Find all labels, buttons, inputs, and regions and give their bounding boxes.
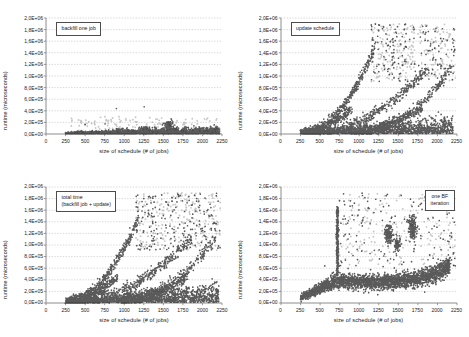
y-axis-title: runtime (microseconds): [237, 71, 243, 130]
y-tick-label: 6,0E+05: [2, 265, 43, 271]
panel-legend-top-left: backfill one job: [56, 22, 101, 36]
y-tick-label: 6,0E+05: [2, 96, 43, 102]
y-tick-label: 1,2E+06: [2, 230, 43, 236]
y-tick-label: 1,4E+06: [2, 50, 43, 56]
y-tick-label: 0,0E+00: [2, 299, 43, 305]
y-tick-label: 1,6E+06: [237, 38, 278, 44]
panel-legend-bottom-left: total time (backfill job + update): [56, 191, 116, 212]
y-tick-label: 8,0E+05: [2, 85, 43, 91]
x-axis-title: size of schedule (# of jobs): [46, 317, 222, 323]
y-tick-label: 8,0E+05: [2, 253, 43, 259]
x-axis-title: size of schedule (# of jobs): [281, 148, 457, 154]
y-tick-label: 1,8E+06: [2, 195, 43, 201]
panel-legend-bottom-right: one BF iteration: [425, 190, 454, 211]
x-tick-label: 2250: [446, 307, 468, 313]
y-tick-label: 0,0E+00: [237, 131, 278, 137]
y-tick-label: 2,0E+06: [237, 15, 278, 21]
y-tick-label: 1,4E+06: [237, 50, 278, 56]
x-tick-label: 2250: [211, 307, 233, 313]
y-axis-title: runtime (microseconds): [2, 71, 8, 130]
y-tick-label: 2,0E+06: [2, 183, 43, 189]
y-tick-label: 4,0E+05: [2, 108, 43, 114]
x-axis-title: size of schedule (# of jobs): [46, 148, 222, 154]
y-tick-label: 1,2E+06: [2, 61, 43, 67]
y-tick-label: 1,4E+06: [2, 218, 43, 224]
y-tick-label: 2,0E+05: [2, 119, 43, 125]
x-tick-label: 2250: [211, 138, 233, 144]
y-tick-label: 1,8E+06: [237, 27, 278, 33]
panel-bottom-right: 0,0E+002,0E+054,0E+056,0E+058,0E+051,0E+…: [235, 169, 469, 337]
panel-top-right: 0,0E+002,0E+054,0E+056,0E+058,0E+051,0E+…: [235, 0, 469, 168]
y-axis-title: runtime (microseconds): [2, 240, 8, 299]
y-tick-label: 2,0E+06: [237, 183, 278, 189]
y-tick-label: 1,2E+06: [237, 61, 278, 67]
x-tick-label: 2250: [446, 138, 468, 144]
y-tick-label: 1,0E+06: [2, 241, 43, 247]
panel-legend-top-right: update schedule: [291, 22, 340, 36]
y-tick-label: 1,8E+06: [237, 195, 278, 201]
x-axis-title: size of schedule (# of jobs): [281, 317, 457, 323]
y-tick-label: 1,6E+06: [2, 38, 43, 44]
y-tick-label: 1,6E+06: [237, 207, 278, 213]
y-tick-label: 0,0E+00: [2, 131, 43, 137]
y-tick-label: 1,2E+06: [237, 230, 278, 236]
y-tick-label: 4,0E+05: [2, 276, 43, 282]
y-axis-title: runtime (microseconds): [237, 240, 243, 299]
figure-four-panel-scatter-grid: 0,0E+002,0E+054,0E+056,0E+058,0E+051,0E+…: [0, 0, 469, 337]
y-tick-label: 2,0E+05: [2, 288, 43, 294]
y-tick-label: 1,4E+06: [237, 218, 278, 224]
y-tick-label: 1,0E+06: [2, 73, 43, 79]
panel-bottom-left: 0,0E+002,0E+054,0E+056,0E+058,0E+051,0E+…: [0, 169, 234, 337]
y-tick-label: 1,6E+06: [2, 207, 43, 213]
y-tick-label: 1,8E+06: [2, 27, 43, 33]
y-tick-label: 0,0E+00: [237, 299, 278, 305]
y-tick-label: 2,0E+06: [2, 15, 43, 21]
panel-top-left: 0,0E+002,0E+054,0E+056,0E+058,0E+051,0E+…: [0, 0, 234, 168]
